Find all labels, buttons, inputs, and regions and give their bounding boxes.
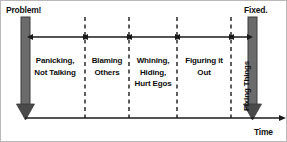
phase-label-figuring: Figuring it Out	[179, 55, 229, 78]
phase-label-whining: Whining, Hiding, Hurt Egos	[131, 55, 175, 90]
phase-label-blaming: Blaming Others	[87, 55, 127, 78]
phase-label-panicking: Panicking, Not Talking	[29, 55, 81, 78]
timeline-diagram: Problem! Fixed. Time Panicking, Not Talk…	[0, 0, 287, 142]
phase-label-fixing: Fixing Things	[242, 61, 252, 111]
fixed-label: Fixed.	[244, 6, 267, 15]
time-axis-label: Time	[254, 128, 273, 137]
problem-label: Problem!	[6, 6, 41, 15]
